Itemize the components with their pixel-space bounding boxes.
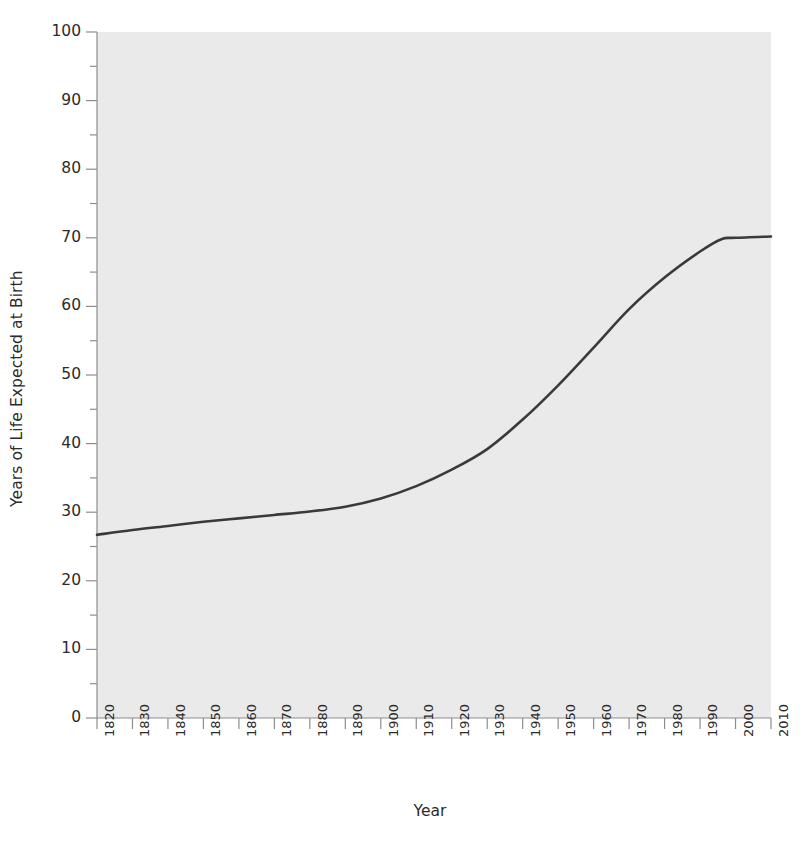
- y-tick-label: 90: [21, 93, 81, 109]
- x-tick-label: 1850: [209, 704, 222, 737]
- y-tick-label: 30: [21, 504, 81, 520]
- y-tick-label: 80: [21, 161, 81, 177]
- x-tick-label: 1940: [529, 704, 542, 737]
- y-axis-title: Years of Life Expected at Birth: [8, 287, 26, 507]
- y-tick-label: 40: [21, 436, 81, 452]
- x-tick-label: 2010: [777, 704, 790, 737]
- y-tick-label: 100: [21, 24, 81, 40]
- x-tick-label: 1870: [280, 704, 293, 737]
- x-tick-label: 1860: [245, 704, 258, 737]
- y-tick-label: 0: [21, 710, 81, 726]
- x-tick-label: 1950: [564, 704, 577, 737]
- x-axis-title: Year: [330, 802, 530, 820]
- x-tick-label: 1920: [458, 704, 471, 737]
- y-tick-label: 10: [21, 641, 81, 657]
- x-tick-label: 1890: [351, 704, 364, 737]
- plot-background: [97, 32, 771, 718]
- y-tick-label: 20: [21, 573, 81, 589]
- x-tick-label: 1900: [387, 704, 400, 737]
- chart-figure: Years of Life Expected at Birth Year 010…: [0, 0, 804, 842]
- x-tick-label: 1840: [174, 704, 187, 737]
- x-tick-label: 1820: [103, 704, 116, 737]
- y-tick-label: 50: [21, 367, 81, 383]
- y-tick-label: 70: [21, 230, 81, 246]
- x-tick-label: 2000: [742, 704, 755, 737]
- x-tick-label: 1930: [493, 704, 506, 737]
- y-axis-ticks: [86, 32, 97, 718]
- x-tick-label: 1980: [671, 704, 684, 737]
- x-tick-label: 1960: [600, 704, 613, 737]
- x-tick-label: 1830: [138, 704, 151, 737]
- x-tick-label: 1970: [635, 704, 648, 737]
- y-tick-label: 60: [21, 298, 81, 314]
- x-tick-label: 1910: [422, 704, 435, 737]
- x-tick-label: 1880: [316, 704, 329, 737]
- x-tick-label: 1990: [706, 704, 719, 737]
